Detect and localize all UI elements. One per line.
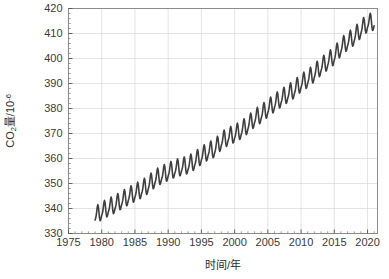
grid-lines (69, 9, 378, 234)
x-tick-label: 1980 (89, 236, 113, 248)
x-tick-label: 1985 (123, 236, 147, 248)
chart-canvas: 1975198019851990199520002005201020152020… (0, 0, 389, 279)
x-tick-label: 2020 (355, 236, 379, 248)
x-tick-label: 2015 (322, 236, 346, 248)
y-tick-label: 350 (44, 177, 62, 189)
y-axis-title: CO2量/10-6 (4, 94, 19, 148)
x-tick-label: 1990 (156, 236, 180, 248)
y-tick-labels: 330340350360370380390400410420 (44, 2, 62, 239)
y-tick-label: 400 (44, 52, 62, 64)
axis-ticks (69, 9, 375, 234)
x-tick-labels: 1975198019851990199520002005201020152020 (56, 236, 380, 248)
y-tick-label: 380 (44, 102, 62, 114)
y-tick-label: 410 (44, 27, 62, 39)
y-tick-label: 360 (44, 152, 62, 164)
x-tick-label: 2000 (222, 236, 246, 248)
y-axis-title-text: CO2量/10-6 (4, 94, 19, 148)
y-tick-label: 330 (44, 227, 62, 239)
co2-chart: 1975198019851990199520002005201020152020… (0, 0, 389, 279)
plot-frame (69, 9, 378, 234)
x-tick-label: 2005 (256, 236, 280, 248)
y-tick-label: 340 (44, 202, 62, 214)
x-tick-label: 1995 (189, 236, 213, 248)
x-axis-title-text: 时间/年 (205, 258, 241, 271)
x-axis-title: 时间/年 (205, 258, 241, 271)
x-tick-label: 2010 (289, 236, 313, 248)
y-tick-label: 420 (44, 2, 62, 14)
y-tick-label: 390 (44, 77, 62, 89)
y-tick-label: 370 (44, 127, 62, 139)
